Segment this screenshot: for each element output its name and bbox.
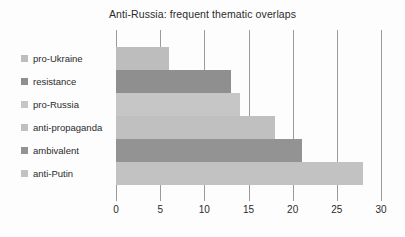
bar-row — [116, 70, 381, 93]
legend-swatch-icon — [21, 55, 28, 62]
x-tick-label: 30 — [375, 204, 386, 215]
chart-title: Anti-Russia: frequent thematic overlaps — [0, 8, 405, 20]
x-tick-label: 25 — [331, 204, 342, 215]
legend-item-label: ambivalent — [33, 146, 79, 156]
bar-row — [116, 162, 381, 185]
bar-pro-ukraine[interactable] — [116, 47, 169, 70]
bar-row — [116, 116, 381, 139]
bar-ambivalent[interactable] — [116, 139, 302, 162]
x-tick-mark — [293, 195, 294, 201]
legend-item-label: anti-propaganda — [33, 123, 102, 133]
legend-swatch-icon — [21, 101, 28, 108]
bar-anti-putin[interactable] — [116, 162, 363, 185]
bar-resistance[interactable] — [116, 70, 231, 93]
x-tick-label: 20 — [287, 204, 298, 215]
x-tick-mark — [249, 195, 250, 201]
legend-item-label: resistance — [33, 77, 76, 87]
legend-item-pro-ukraine[interactable]: pro-Ukraine — [21, 47, 116, 70]
chart-legend: pro-Ukraineresistancepro-Russiaanti-prop… — [21, 47, 116, 185]
bar-row — [116, 47, 381, 70]
bar-row — [116, 139, 381, 162]
x-tick-mark — [381, 195, 382, 201]
plot-area — [116, 30, 381, 195]
legend-swatch-icon — [21, 78, 28, 85]
bar-pro-russia[interactable] — [116, 93, 240, 116]
bars-container — [116, 47, 381, 185]
legend-item-resistance[interactable]: resistance — [21, 70, 116, 93]
gridline-30 — [381, 30, 382, 195]
bar-chart: Anti-Russia: frequent thematic overlaps … — [0, 0, 405, 237]
x-axis: 051015202530 — [116, 195, 381, 225]
bar-row — [116, 93, 381, 116]
x-tick-label: 10 — [199, 204, 210, 215]
legend-item-label: anti-Putin — [33, 169, 73, 179]
legend-swatch-icon — [21, 124, 28, 131]
x-tick-mark — [116, 195, 117, 201]
x-tick-label: 15 — [243, 204, 254, 215]
x-tick-label: 5 — [157, 204, 163, 215]
legend-item-label: pro-Russia — [33, 100, 79, 110]
legend-item-anti-propaganda[interactable]: anti-propaganda — [21, 116, 116, 139]
x-tick-mark — [337, 195, 338, 201]
bar-anti-propaganda[interactable] — [116, 116, 275, 139]
x-tick-label: 0 — [113, 204, 119, 215]
legend-item-pro-russia[interactable]: pro-Russia — [21, 93, 116, 116]
legend-item-label: pro-Ukraine — [33, 54, 83, 64]
x-tick-mark — [160, 195, 161, 201]
x-tick-mark — [204, 195, 205, 201]
legend-item-anti-putin[interactable]: anti-Putin — [21, 162, 116, 185]
legend-swatch-icon — [21, 147, 28, 154]
legend-item-ambivalent[interactable]: ambivalent — [21, 139, 116, 162]
legend-swatch-icon — [21, 170, 28, 177]
